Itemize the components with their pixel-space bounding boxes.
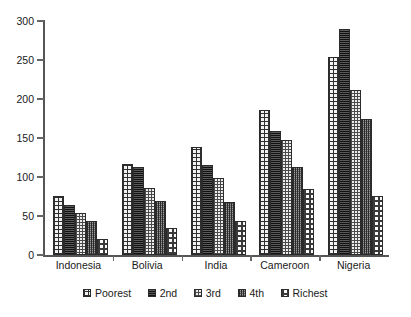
y-axis-tick xyxy=(37,98,44,99)
bar-group-bolivia xyxy=(122,21,177,255)
y-axis-tick xyxy=(37,20,44,21)
bar-bolivia-poorest xyxy=(122,164,133,255)
chart-legend: Poorest2nd3rd4thRichest xyxy=(0,288,411,298)
x-axis-label-bolivia: Bolivia xyxy=(113,259,182,271)
y-axis-tick xyxy=(37,215,44,216)
y-axis-tick xyxy=(37,59,44,60)
y-axis-tick-label: 0 xyxy=(0,250,34,260)
legend-label: 3rd xyxy=(206,288,221,298)
bar-cameroon-4th xyxy=(292,167,303,255)
bar-india-3rd xyxy=(213,178,224,255)
bar-india-poorest xyxy=(191,147,202,255)
bar-indonesia-poorest xyxy=(53,196,64,255)
bar-indonesia-richest xyxy=(97,239,108,255)
y-axis-tick-label: 150 xyxy=(0,133,34,143)
bar-cameroon-3rd xyxy=(281,140,292,255)
x-axis-label-cameroon: Cameroon xyxy=(250,259,319,271)
bar-chart: 050100150200250300 Poorest2nd3rd4thRiche… xyxy=(0,0,411,317)
y-axis-tick xyxy=(37,137,44,138)
legend-label: 4th xyxy=(249,288,264,298)
y-axis-tick-label: 200 xyxy=(0,94,34,104)
legend-item-2nd[interactable]: 2nd xyxy=(148,288,177,298)
legend-swatch-icon xyxy=(83,289,91,297)
bar-india-4th xyxy=(224,202,235,255)
bar-nigeria-3rd xyxy=(350,90,361,255)
legend-label: Poorest xyxy=(95,288,131,298)
bar-nigeria-2nd xyxy=(339,29,350,255)
bar-cameroon-richest xyxy=(303,189,314,255)
plot-area xyxy=(44,21,388,255)
bar-indonesia-3rd xyxy=(75,213,86,255)
bar-group-nigeria xyxy=(328,21,383,255)
bar-india-richest xyxy=(235,221,246,255)
legend-item-3rd[interactable]: 3rd xyxy=(194,288,221,298)
bar-group-indonesia xyxy=(53,21,108,255)
bar-bolivia-3rd xyxy=(144,188,155,255)
bar-indonesia-2nd xyxy=(64,205,75,255)
x-axis-label-india: India xyxy=(182,259,251,271)
legend-label: 2nd xyxy=(160,288,178,298)
y-axis-tick-label: 100 xyxy=(0,172,34,182)
bar-cameroon-poorest xyxy=(259,110,270,255)
x-axis-line xyxy=(43,255,389,257)
legend-item-poorest[interactable]: Poorest xyxy=(83,288,131,298)
bar-indonesia-4th xyxy=(86,221,97,255)
bar-nigeria-richest xyxy=(372,196,383,255)
legend-item-richest[interactable]: Richest xyxy=(281,288,328,298)
y-axis-tick xyxy=(37,176,44,177)
bar-nigeria-4th xyxy=(361,119,372,256)
bar-bolivia-2nd xyxy=(133,167,144,255)
legend-swatch-icon xyxy=(281,289,289,297)
y-axis-tick-label: 50 xyxy=(0,211,34,221)
y-axis-tick xyxy=(37,254,44,255)
bar-nigeria-poorest xyxy=(328,57,339,255)
bar-india-2nd xyxy=(202,165,213,255)
bar-bolivia-4th xyxy=(155,201,166,255)
legend-item-4th[interactable]: 4th xyxy=(238,288,264,298)
y-axis-tick-label: 300 xyxy=(0,16,34,26)
x-axis-label-indonesia: Indonesia xyxy=(44,259,113,271)
x-axis-label-nigeria: Nigeria xyxy=(319,259,388,271)
bar-group-cameroon xyxy=(259,21,314,255)
bar-group-india xyxy=(191,21,246,255)
bar-cameroon-2nd xyxy=(270,131,281,255)
y-axis-labels: 050100150200250300 xyxy=(0,0,34,317)
legend-label: Richest xyxy=(293,288,328,298)
y-axis-tick-label: 250 xyxy=(0,55,34,65)
legend-swatch-icon xyxy=(238,289,246,297)
bar-bolivia-richest xyxy=(166,228,177,255)
legend-swatch-icon xyxy=(148,289,156,297)
legend-swatch-icon xyxy=(194,289,202,297)
